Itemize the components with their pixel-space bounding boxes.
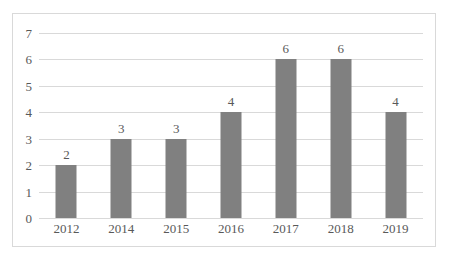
x-axis-tick-label: 2012 <box>53 222 79 235</box>
chart-plot-frame: 01234567 2334664 20122014201520162017201… <box>12 13 436 247</box>
bar[interactable] <box>111 139 132 218</box>
bar-value-label: 3 <box>118 122 125 135</box>
y-axis-tick-label: 0 <box>26 212 33 225</box>
y-axis-tick-label: 5 <box>26 79 33 92</box>
bars-layer: 2334664 <box>39 33 423 218</box>
bar-group[interactable]: 4 <box>368 33 423 218</box>
bar[interactable] <box>385 112 406 218</box>
x-axis: 2012201420152016201720182019 <box>39 222 423 240</box>
x-axis-tick-label: 2018 <box>328 222 354 235</box>
x-axis-tick-label: 2014 <box>108 222 134 235</box>
bar-value-label: 2 <box>63 148 70 161</box>
y-axis-tick-label: 2 <box>26 159 33 172</box>
bar-group[interactable]: 6 <box>313 33 368 218</box>
x-axis-tick-label: 2017 <box>273 222 299 235</box>
x-axis-tick-label: 2019 <box>383 222 409 235</box>
y-axis-tick-label: 1 <box>26 185 33 198</box>
bar-chart-figure: 01234567 2334664 20122014201520162017201… <box>0 0 450 265</box>
bar-group[interactable]: 3 <box>149 33 204 218</box>
x-axis-tick-label: 2016 <box>218 222 244 235</box>
bar-value-label: 4 <box>392 95 399 108</box>
x-axis-tick-label: 2015 <box>163 222 189 235</box>
bar[interactable] <box>220 112 241 218</box>
axis-baseline <box>39 218 423 219</box>
bar-value-label: 6 <box>283 42 290 55</box>
bar-value-label: 6 <box>337 42 344 55</box>
bar-group[interactable]: 2 <box>39 33 94 218</box>
y-axis-tick-label: 3 <box>26 132 33 145</box>
y-axis-tick-label: 4 <box>26 106 33 119</box>
bar[interactable] <box>56 165 77 218</box>
bar-value-label: 3 <box>173 122 180 135</box>
bar-group[interactable]: 3 <box>94 33 149 218</box>
bar[interactable] <box>275 59 296 218</box>
bar[interactable] <box>166 139 187 218</box>
bar-group[interactable]: 4 <box>204 33 259 218</box>
y-axis-tick-label: 7 <box>26 27 33 40</box>
bar-value-label: 4 <box>228 95 235 108</box>
y-axis-tick-label: 6 <box>26 53 33 66</box>
bar[interactable] <box>330 59 351 218</box>
bar-group[interactable]: 6 <box>258 33 313 218</box>
